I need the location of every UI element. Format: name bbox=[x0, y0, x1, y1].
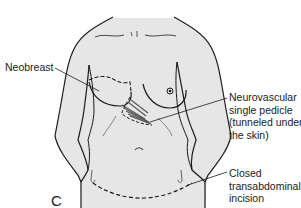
breast-reconstruction-diagram: Neobreast Neurovascular single pedicle (… bbox=[0, 0, 301, 208]
pedicle-label-line: Neurovascular bbox=[229, 91, 301, 104]
incision-label: Closed transabdominal incision bbox=[229, 167, 301, 205]
pedicle-label-line: the skin) bbox=[229, 129, 301, 142]
neobreast-label: Neobreast bbox=[5, 61, 53, 74]
incision-label-line: Closed bbox=[229, 167, 301, 180]
pedicle-label: Neurovascular single pedicle (tunneled u… bbox=[229, 91, 301, 141]
pedicle-label-line: single pedicle bbox=[229, 104, 301, 117]
panel-letter: C bbox=[51, 192, 62, 208]
pedicle-label-line: (tunneled under bbox=[229, 116, 301, 129]
incision-label-line: transabdominal bbox=[229, 180, 301, 193]
incision-label-line: incision bbox=[229, 192, 301, 205]
